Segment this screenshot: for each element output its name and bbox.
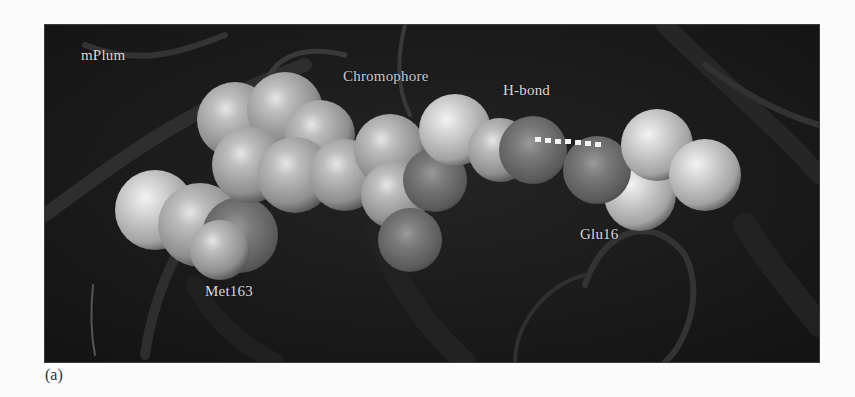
label-glu16: Glu16 (580, 226, 619, 243)
molecule-rendering (45, 25, 819, 362)
panel-letter: (a) (45, 366, 63, 384)
label-met163: Met163 (205, 283, 253, 300)
protein-structure-image: mPlum Chromophore H-bond Glu16 Met163 (45, 25, 819, 362)
figure-panel-a: mPlum Chromophore H-bond Glu16 Met163 (a… (0, 0, 855, 397)
label-chromophore: Chromophore (343, 68, 429, 85)
label-mplum: mPlum (81, 47, 125, 64)
label-hbond: H-bond (503, 82, 550, 99)
